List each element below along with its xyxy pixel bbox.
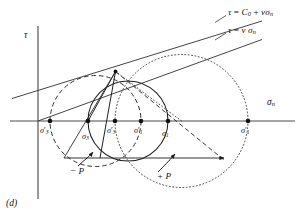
envelope-lines-group [12,21,262,121]
annotation-arrows-group [78,152,175,172]
dot-sigma1-prime-mid [139,119,144,124]
axis-label-sigma1-prime-mid: σ′1 [134,127,143,136]
failure-envelope-leader [215,16,226,23]
dot-sigma3-solid [86,119,91,124]
sigma-n-subscript: n [272,100,275,107]
plus-p-leader-arrow [158,154,175,172]
sigma-subscript: 1 [166,132,169,138]
sigma-subscript: n [253,28,256,35]
common-tangent-point [114,70,118,74]
solid-mohr-circle-group [88,72,168,162]
equals-symbol: = [234,7,239,17]
sigma-subscript: n [270,10,273,17]
plus-p-annotation-label: + P [157,172,171,181]
figure-caption: (d) [6,198,17,208]
sigma-subscript: 1 [140,129,143,135]
dot-sigma3-prime-mid [113,119,118,124]
sigma-subscript: 3 [113,129,116,135]
equation-leader-group [215,16,226,41]
dashed-construction-line [116,72,225,161]
dot-sigma1-prime-right [246,119,251,124]
tau-symbol: τ [228,25,231,35]
axis-label-sigma3-solid: σ3 [82,133,89,142]
axis-group [10,26,295,199]
mohr-diagram-canvas [0,0,303,216]
axis-label-sigma3-prime-left: σ′3 [40,127,49,136]
dotted-circle-radius [116,72,182,122]
failure-envelope-line [12,21,262,99]
sigma-subscript: 3 [86,135,89,141]
sigma-subscript: 1 [247,129,250,135]
minus-p-leader-arrow [78,152,93,166]
axis-label-sigma1-prime-right: σ′1 [241,127,250,136]
tau-symbol: τ [228,7,231,17]
dot-sigma3-prime-left [48,119,53,124]
dashed-mohr-circle-group [50,72,224,167]
tau-axis-label: τ [24,31,27,40]
axis-label-sigma3-prime-mid: σ′3 [107,127,116,136]
cohesion-subscript: 0 [248,10,251,17]
sigma-subscript: 3 [46,129,49,135]
sliding-friction-equation-label: τ = ν σn [228,26,256,36]
dot-sigma1-solid [166,119,171,124]
plus-symbol: + [253,7,258,17]
mohr-circle-figure: τ = C0 + νσn τ = ν σn τ σn σ′3 σ3 σ′3 σ′… [0,0,303,216]
minus-p-annotation-label: − P [70,167,84,176]
nu-symbol: ν [242,25,246,35]
axis-label-sigma1-solid: σ1 [162,130,169,139]
equals-symbol: = [234,25,239,35]
sigma-n-axis-label: σn [267,98,275,108]
failure-envelope-equation-label: τ = C0 + νσn [228,8,273,18]
